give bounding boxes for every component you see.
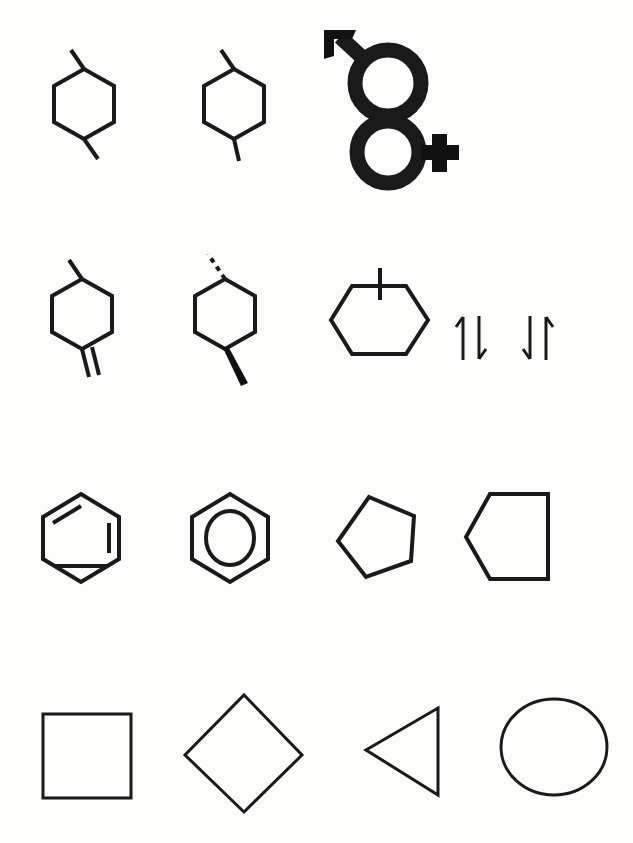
glyph-methylcyclohexene-double-bond[interactable] bbox=[30, 258, 148, 398]
diamond-icon bbox=[182, 692, 306, 816]
square-icon bbox=[41, 712, 137, 804]
glyph-paired-spin-down-up[interactable] bbox=[522, 312, 562, 364]
hexagon-two-methyl-icon bbox=[32, 48, 147, 178]
glyph-cyclopentane-left-vertex[interactable] bbox=[335, 493, 427, 585]
circle-icon bbox=[498, 696, 612, 800]
glyph-left-pointing-triangle[interactable] bbox=[363, 705, 445, 801]
hexagon-two-methyl-alt-icon bbox=[182, 48, 297, 178]
glyph-stereochemistry-dimethylcyclohexane[interactable] bbox=[170, 252, 305, 404]
glyph-male-female-symbol[interactable] bbox=[318, 28, 478, 193]
hexagon-flat-top-vertical-line-icon bbox=[330, 262, 442, 372]
glyph-sheet bbox=[0, 0, 633, 843]
glyph-diamond[interactable] bbox=[182, 692, 306, 816]
glyph-pentagon-flat-right[interactable] bbox=[464, 490, 564, 586]
glyph-paired-spin-up-down[interactable] bbox=[455, 312, 495, 364]
glyph-benzene-kekule[interactable] bbox=[37, 487, 133, 585]
glyph-benzene-circle[interactable] bbox=[186, 487, 282, 585]
glyph-circle[interactable] bbox=[498, 696, 612, 800]
glyph-trans-1-4-dimethylcyclohexane[interactable] bbox=[32, 48, 147, 178]
glyph-square[interactable] bbox=[41, 712, 137, 804]
male-female-symbol-icon bbox=[318, 28, 478, 193]
arrow-up-down-pair-icon bbox=[455, 312, 495, 364]
benzene-circle-icon bbox=[186, 487, 282, 585]
benzene-kekule-icon bbox=[37, 487, 133, 585]
glyph-cis-1-4-dimethylcyclohexane[interactable] bbox=[182, 48, 297, 178]
pentagon-flat-right-icon bbox=[464, 490, 564, 586]
pentagon-left-vertex-icon bbox=[335, 493, 427, 585]
triangle-left-icon bbox=[363, 705, 445, 801]
hexagon-wedge-dash-icon bbox=[170, 252, 305, 404]
glyph-methylcyclohexane-vertical-bond[interactable] bbox=[330, 262, 442, 372]
arrow-down-up-pair-icon bbox=[522, 312, 562, 364]
hexagon-methyl-double-bond-icon bbox=[30, 258, 148, 398]
